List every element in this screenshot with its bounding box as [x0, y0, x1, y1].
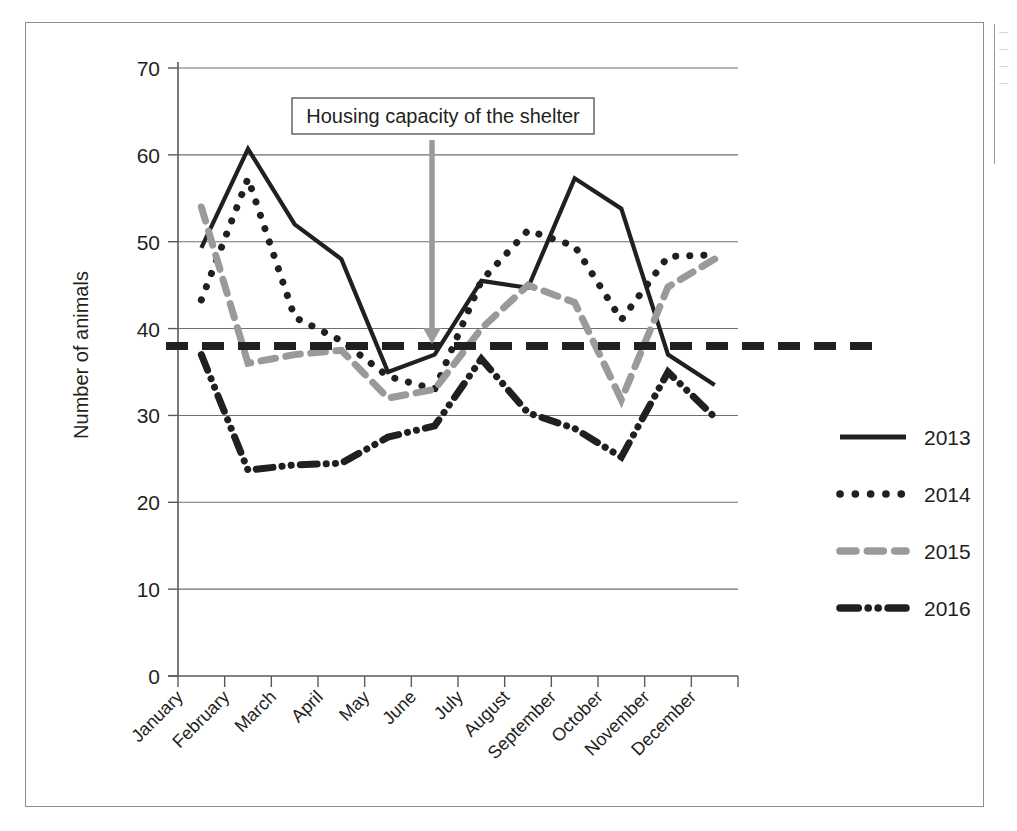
capacity-annotation: Housing capacity of the shelter: [292, 98, 594, 344]
line-chart: 010203040506070 JanuaryFebruaryMarchApri…: [0, 0, 1017, 831]
y-axis-tick-label: 70: [137, 57, 160, 80]
x-axis-month-label: May: [335, 687, 373, 725]
series-line-2016: [201, 355, 714, 471]
legend-label-2015: 2015: [924, 540, 971, 563]
x-axis-month-label: July: [430, 687, 467, 724]
y-axis-tick-labels: 010203040506070: [137, 57, 160, 688]
chart-legend: 2013201420152016: [840, 426, 971, 620]
y-axis-title: Number of animals: [70, 271, 92, 439]
y-axis-tick-label: 30: [137, 404, 160, 427]
series-line-2015: [201, 207, 714, 400]
y-axis-tick-label: 0: [148, 665, 160, 688]
x-axis-month-label: June: [378, 687, 420, 729]
y-axis-tick-label: 40: [137, 318, 160, 341]
x-axis-month-labels: JanuaryFebruaryMarchAprilMayJuneJulyAugu…: [127, 687, 700, 763]
y-axis-tick-label: 10: [137, 578, 160, 601]
legend-label-2016: 2016: [924, 597, 971, 620]
x-axis-month-label: April: [287, 687, 327, 727]
annotation-text: Housing capacity of the shelter: [306, 105, 580, 127]
y-axis-tick-label: 60: [137, 144, 160, 167]
y-axis-tick-label: 50: [137, 231, 160, 254]
y-axis-tick-label: 20: [137, 491, 160, 514]
data-series-group: [201, 149, 714, 470]
x-axis-tickmarks: [178, 676, 738, 687]
legend-label-2013: 2013: [924, 426, 971, 449]
legend-label-2014: 2014: [924, 483, 971, 506]
x-axis-month-label: March: [231, 687, 281, 737]
